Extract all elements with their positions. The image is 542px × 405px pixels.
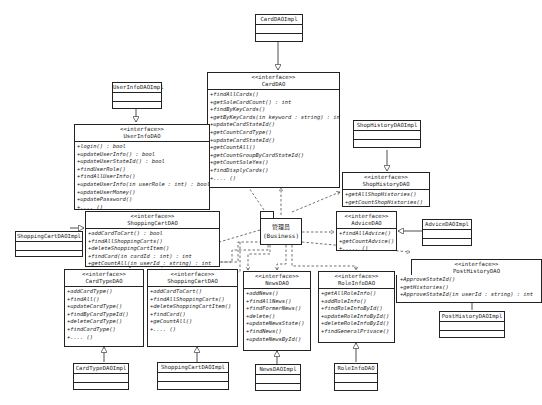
attributes-compartment [354,131,420,140]
package-name: 管理员 [261,222,301,231]
operations-list: +addNews() +findAllNews() +findFormerNew… [244,289,310,344]
operation: +updateCardType() [67,303,143,311]
operation: +updateNewsById() [246,336,310,344]
interface-name: UserInfoDAO [75,133,209,140]
stereotype-label: <<interface>> [337,213,396,220]
operations-compartment [335,383,377,391]
card-type-dao-interface[interactable]: <<interface>> CardTypeDAO +addCardType()… [64,269,144,347]
attributes-compartment [440,322,504,331]
shop-history-dao-impl-class[interactable]: ShopHistoryDAOImpl [353,120,421,148]
operation: +findByKeyCards() [210,106,339,114]
card-dao-interface[interactable]: <<interface>> CardDAO +findAllCards() +g… [207,72,340,188]
shopping-cart-dao-2-interface[interactable]: <<interface>> ShoppingCartDAO +addCardTo… [147,269,238,347]
interface-header: <<interface>> ShoppingCartDAO [86,212,219,229]
operations-compartment [256,34,302,42]
operation: +updateCardStateId() [210,121,339,129]
attributes-compartment [74,374,128,383]
class-name: CardTypeDAOImpl [74,364,128,374]
news-dao-impl-class[interactable]: NewsDAOImpl [255,364,301,391]
operations-compartment [354,140,420,148]
operation: +addCardToCart() : bool [88,230,219,238]
operation: +getCountAll(in userId : string) : int [88,260,219,268]
class-name: PostHistoryDAOImpl [440,312,504,322]
operation: +getCountSaleYes() [210,159,339,167]
interface-name: PostHistoryDAO [412,268,541,275]
package-body: 管理员 (Business) [260,218,302,245]
class-name: NewsDAOImpl [256,365,300,375]
card-type-dao-impl-class[interactable]: CardTypeDAOImpl [73,363,129,390]
operations-list: +addCardToCart() +findAllShoppingCarts()… [148,287,237,335]
user-info-dao-impl-class[interactable]: UserInfoDAOImpl [112,82,162,109]
operation: +updateUserInfo() : bool [77,151,209,159]
interface-name: CardTypeDAO [65,278,143,285]
card-dao-impl-class[interactable]: CardDAOImpl [255,14,303,42]
attributes-compartment [256,25,302,34]
class-name: ShoppingCartDAOImpl [16,232,82,242]
operation: +findGeneralPrivace() [321,328,394,336]
operation: +updateUserStateId() : bool [77,158,209,166]
operation: +getAllShopHistories() [345,191,429,199]
operation: +addRoleInfo() [321,298,394,306]
operation: +deleteCardType() [67,318,143,326]
operations-compartment [256,384,300,392]
operation: +findAll() [67,296,143,304]
stereotype-label: <<interface>> [148,271,237,278]
class-name: ShoppingCartDAOImpl [158,363,228,373]
operation: +deleteShoppingCartItem() [88,245,219,253]
operations-compartment [113,102,161,110]
stereotype-label: <<interface>> [208,74,339,81]
operation: +findAllShoppingCarts() [150,296,237,304]
interface-name: ShopHistoryDAO [343,181,429,188]
operation: +findCardType() [67,326,143,334]
operations-list: +addCardType() +findAll() +updateCardTyp… [65,287,143,342]
role-info-dao-interface[interactable]: <<interface>> RoleInfoDAO +getAllRoleInf… [318,271,395,343]
attributes-compartment [335,374,377,383]
operations-compartment [74,383,128,391]
interface-header: <<interface>> CardTypeDAO [65,270,143,287]
operations-compartment [158,382,228,390]
operation: +deleteShoppingCartItem() [150,303,237,311]
stereotype-label: <<interface>> [343,174,429,181]
operation: +findNews() [246,328,310,336]
operation: +findRoleInfoById() [321,305,394,313]
operation: +findAllUserInfo() [77,173,209,181]
interface-name: NewsDAO [244,280,310,287]
advice-dao-impl-class[interactable]: AdviceDAOImpl [422,219,472,246]
package-tab [260,211,274,218]
operation: +.... () [67,334,143,342]
operations-compartment [16,251,82,259]
news-dao-interface[interactable]: <<interface>> NewsDAO +addNews() +findAl… [243,271,311,351]
operation: +..... () [339,245,396,253]
stereotype-label: <<interface>> [319,273,394,280]
operation: +getCountShopHistories() [345,199,429,207]
shop-history-dao-interface[interactable]: <<interface>> ShopHistoryDAO +getAllShop… [342,172,430,207]
shopping-cart-dao-impl-left-class[interactable]: ShoppingCartDAOImpl [15,231,83,257]
operation: +getCountCardType() [210,129,339,137]
role-info-dao-impl-class[interactable]: RoleInfoDAO [334,363,378,391]
business-package[interactable]: 管理员 (Business) [260,211,302,245]
operation: +ApproveStateId() [400,276,541,284]
operation: +findAllShoppingCarts() [88,238,219,246]
operation: +login() : bool [77,143,209,151]
interface-header: <<interface>> ShopHistoryDAO [343,173,429,190]
shopping-cart-dao-interface[interactable]: <<interface>> ShoppingCartDAO +addCardTo… [85,211,220,267]
attributes-compartment [256,375,300,384]
operation: +getCountAll() [210,144,339,152]
operation: +findByCardTypeId() [67,311,143,319]
advice-dao-interface[interactable]: <<interface>> AdviceDAO +findAllAdvice()… [336,211,397,251]
class-name: UserInfoDAOImpl [113,83,161,93]
stereotype-label: <<interface>> [412,261,541,268]
interface-name: ShoppingCartDAO [86,220,219,227]
interface-header: <<interface>> RoleInfoDAO [319,272,394,289]
user-info-dao-interface[interactable]: <<interface>> UserInfoDAO +login() : boo… [74,124,210,210]
attributes-compartment [113,93,161,102]
attributes-compartment [16,242,82,251]
operations-list: +findAllAdvice() +getCountAdvice() +....… [337,229,396,254]
interface-name: CardDAO [208,81,339,88]
post-history-dao-impl-class[interactable]: PostHistoryDAOImpl [439,311,505,338]
operations-compartment [440,331,504,339]
operation: +findCard() [150,311,237,319]
operation: +getAllRoleInfo() [321,290,394,298]
operation: +updateNewsState() [246,320,310,328]
shopping-cart-dao-impl-bottom-class[interactable]: ShoppingCartDAOImpl [157,362,229,390]
